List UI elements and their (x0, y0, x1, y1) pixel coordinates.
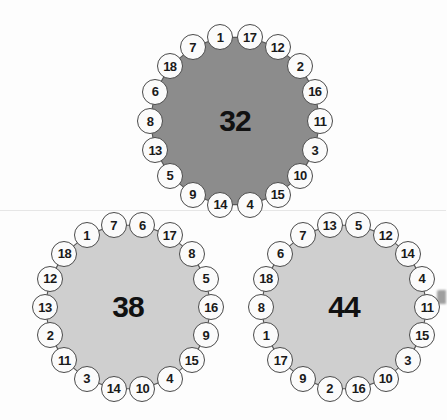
vertex-node[interactable]: 17 (237, 24, 263, 50)
vertex-node[interactable]: 9 (290, 366, 316, 392)
vertex-node[interactable]: 5 (193, 266, 219, 292)
vertex-node[interactable]: 12 (265, 34, 291, 60)
vertex-node[interactable]: 10 (287, 163, 313, 189)
vertex-node[interactable]: 3 (74, 366, 100, 392)
polygon-figure: 32117122161131015414951386187 (130, 16, 340, 226)
vertex-node[interactable]: 11 (307, 108, 333, 134)
polygon-center-value: 44 (328, 292, 359, 322)
vertex-node[interactable]: 7 (180, 34, 206, 60)
vertex-node[interactable]: 13 (142, 137, 168, 163)
polygon-figure: 38761785169154101431121312181 (25, 204, 231, 410)
vertex-node[interactable]: 15 (179, 347, 205, 373)
vertex-node[interactable]: 6 (267, 241, 293, 267)
vertex-node[interactable]: 8 (248, 294, 274, 320)
vertex-node[interactable]: 13 (317, 212, 343, 238)
vertex-node[interactable]: 4 (157, 366, 183, 392)
vertex-node[interactable]: 14 (101, 376, 127, 402)
vertex-node[interactable]: 7 (290, 222, 316, 248)
vertex-node[interactable]: 12 (373, 222, 399, 248)
vertex-node[interactable]: 5 (157, 163, 183, 189)
polygon-figure: 44135121441115310162917181867 (241, 204, 447, 410)
vertex-node[interactable]: 16 (345, 376, 371, 402)
vertex-node[interactable]: 2 (317, 376, 343, 402)
vertex-node[interactable]: 18 (51, 241, 77, 267)
vertex-node[interactable]: 8 (137, 108, 163, 134)
polygon-center-value: 32 (219, 106, 250, 136)
vertex-node[interactable]: 11 (414, 294, 440, 320)
vertex-node[interactable]: 1 (74, 222, 100, 248)
vertex-node[interactable]: 16 (198, 294, 224, 320)
vertex-node[interactable]: 7 (101, 212, 127, 238)
vertex-node[interactable]: 17 (157, 222, 183, 248)
vertex-node[interactable]: 13 (32, 294, 58, 320)
vertex-node[interactable]: 10 (373, 366, 399, 392)
vertex-node[interactable]: 4 (409, 266, 435, 292)
vertex-node[interactable]: 14 (395, 241, 421, 267)
vertex-node[interactable]: 3 (302, 137, 328, 163)
vertex-node[interactable]: 3 (395, 347, 421, 373)
vertex-node[interactable]: 18 (253, 266, 279, 292)
vertex-node[interactable]: 10 (129, 376, 155, 402)
vertex-node[interactable]: 8 (179, 241, 205, 267)
polygon-center-value: 38 (112, 292, 143, 322)
vertex-node[interactable]: 12 (37, 266, 63, 292)
vertex-node[interactable]: 6 (142, 79, 168, 105)
vertex-node[interactable]: 16 (302, 79, 328, 105)
